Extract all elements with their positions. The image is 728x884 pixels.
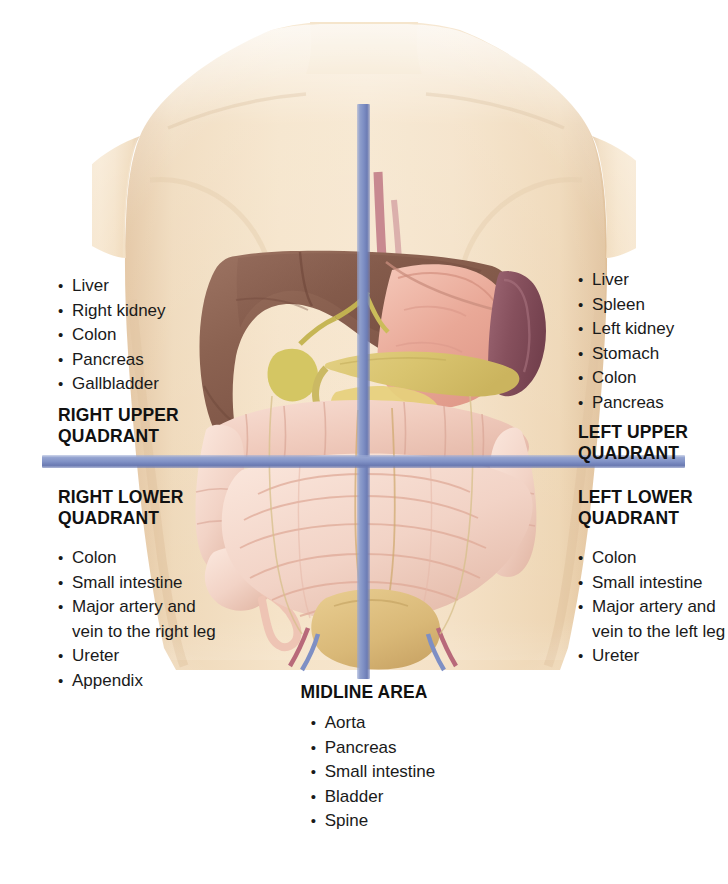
- bullet-icon: •: [58, 595, 63, 620]
- list-item: •Liver: [58, 274, 179, 299]
- list-item: •Colon: [58, 546, 216, 571]
- list-item: •Spleen: [578, 293, 688, 318]
- bullet-icon: •: [578, 366, 583, 391]
- list-item: •Colon: [578, 546, 725, 571]
- bullet-icon: •: [58, 571, 63, 596]
- list-item-continuation: vein to the left leg: [592, 620, 725, 645]
- bullet-icon: •: [578, 391, 583, 416]
- list-item: •Aorta: [311, 711, 436, 736]
- list-item: •Spine: [311, 809, 436, 834]
- list-item: •Major artery andvein to the left leg: [578, 595, 725, 644]
- bullet-icon: •: [578, 268, 583, 293]
- bullet-icon: •: [58, 299, 63, 324]
- list-item: •Small intestine: [58, 571, 216, 596]
- list-item: •Ureter: [578, 644, 725, 669]
- list-item: •Major artery andvein to the right leg: [58, 595, 216, 644]
- abdominal-quadrants-diagram: •Liver •Right kidney •Colon •Pancreas •G…: [0, 0, 728, 884]
- bullet-icon: •: [58, 323, 63, 348]
- list-item: •Right kidney: [58, 299, 179, 324]
- left-lower-quadrant-block: LEFT LOWER QUADRANT •Colon •Small intest…: [578, 487, 725, 669]
- list-item: •Colon: [58, 323, 179, 348]
- bullet-icon: •: [578, 595, 583, 620]
- list-item: •Left kidney: [578, 317, 688, 342]
- right-upper-quadrant-heading: RIGHT UPPER QUADRANT: [58, 405, 179, 447]
- bullet-icon: •: [578, 644, 583, 669]
- bullet-icon: •: [58, 372, 63, 397]
- list-item: •Ureter: [58, 644, 216, 669]
- left-upper-quadrant-list: •Liver •Spleen •Left kidney •Stomach •Co…: [578, 268, 688, 415]
- bullet-icon: •: [58, 348, 63, 373]
- midline-area-block: MIDLINE AREA •Aorta •Pancreas •Small int…: [0, 682, 728, 834]
- midline-area-heading: MIDLINE AREA: [0, 682, 728, 703]
- bullet-icon: •: [311, 760, 316, 785]
- bullet-icon: •: [58, 546, 63, 571]
- bullet-icon: •: [578, 317, 583, 342]
- list-item: •Stomach: [578, 342, 688, 367]
- midline-vertical-axis: [357, 104, 370, 679]
- bullet-icon: •: [58, 274, 63, 299]
- bullet-icon: •: [578, 546, 583, 571]
- right-lower-quadrant-heading: RIGHT LOWER QUADRANT: [58, 487, 216, 529]
- list-item: •Pancreas: [311, 736, 436, 761]
- bullet-icon: •: [578, 571, 583, 596]
- bullet-icon: •: [311, 785, 316, 810]
- left-upper-quadrant-heading: LEFT UPPER QUADRANT: [578, 422, 688, 464]
- bullet-icon: •: [58, 644, 63, 669]
- list-item: •Gallbladder: [58, 372, 179, 397]
- list-item: •Bladder: [311, 785, 436, 810]
- right-upper-quadrant-list: •Liver •Right kidney •Colon •Pancreas •G…: [58, 274, 179, 397]
- list-item: •Pancreas: [58, 348, 179, 373]
- list-item: •Small intestine: [578, 571, 725, 596]
- right-upper-quadrant-block: •Liver •Right kidney •Colon •Pancreas •G…: [58, 274, 179, 447]
- bullet-icon: •: [311, 736, 316, 761]
- list-item: •Pancreas: [578, 391, 688, 416]
- bullet-icon: •: [311, 711, 316, 736]
- list-item: •Colon: [578, 366, 688, 391]
- bullet-icon: •: [578, 293, 583, 318]
- bullet-icon: •: [578, 342, 583, 367]
- left-upper-quadrant-block: •Liver •Spleen •Left kidney •Stomach •Co…: [578, 268, 688, 464]
- list-item: •Small intestine: [311, 760, 436, 785]
- left-lower-quadrant-heading: LEFT LOWER QUADRANT: [578, 487, 725, 529]
- midline-area-list: •Aorta •Pancreas •Small intestine •Bladd…: [311, 711, 436, 834]
- list-item: •Liver: [578, 268, 688, 293]
- list-item-continuation: vein to the right leg: [72, 620, 216, 645]
- right-lower-quadrant-block: RIGHT LOWER QUADRANT •Colon •Small intes…: [58, 487, 216, 693]
- left-lower-quadrant-list: •Colon •Small intestine •Major artery an…: [578, 546, 725, 669]
- right-lower-quadrant-list: •Colon •Small intestine •Major artery an…: [58, 546, 216, 693]
- bullet-icon: •: [311, 809, 316, 834]
